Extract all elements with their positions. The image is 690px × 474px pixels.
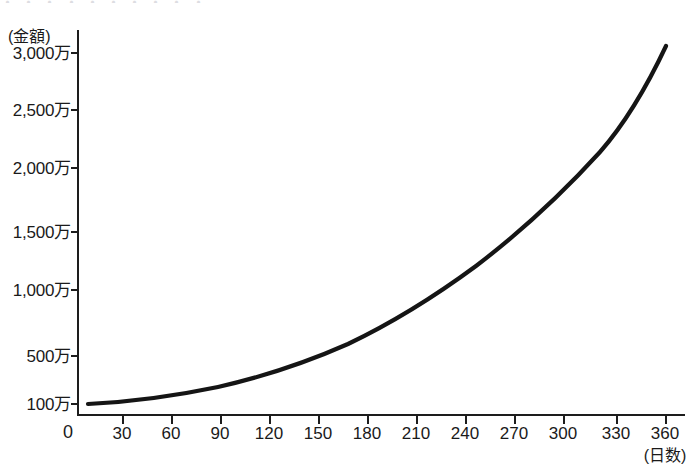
y-tick-label: 3,000万 xyxy=(1,45,71,62)
x-axis-title: (日数) xyxy=(619,448,690,464)
x-tick-360 xyxy=(665,416,667,424)
y-tick-label: 500万 xyxy=(1,348,71,365)
x-tick-240 xyxy=(465,416,467,424)
y-axis-tick-labels: 3,000万 2,500万 2,000万 1,500万 1,000万 500万 … xyxy=(0,0,71,474)
y-tick-3000man xyxy=(71,52,79,54)
x-tick-270 xyxy=(514,416,516,424)
y-tick-2000man xyxy=(71,167,79,169)
x-axis-line xyxy=(77,414,685,416)
y-tick-label: 2,500万 xyxy=(1,102,71,119)
y-tick-2500man xyxy=(71,109,79,111)
x-tick-120 xyxy=(269,416,271,424)
y-tick-1500man xyxy=(71,231,79,233)
y-tick-500man xyxy=(71,355,79,357)
x-tick-label: 300 xyxy=(533,425,593,443)
x-tick-150 xyxy=(318,416,320,424)
top-edge-text-remnant: ・ ・ ・ ・ ・ ・ ・ ・ ・ ・ xyxy=(0,0,690,3)
x-tick-label: 360 xyxy=(635,425,690,443)
y-tick-100man xyxy=(71,403,79,405)
y-tick-1000man xyxy=(71,289,79,291)
x-tick-30 xyxy=(122,416,124,424)
y-tick-label: 1,000万 xyxy=(1,282,71,299)
x-tick-label: 0 xyxy=(38,423,98,441)
y-axis-line xyxy=(77,30,79,416)
y-tick-label: 100万 xyxy=(1,396,71,413)
plot-area xyxy=(0,0,690,474)
x-tick-300 xyxy=(563,416,565,424)
x-tick-60 xyxy=(171,416,173,424)
x-tick-90 xyxy=(220,416,222,424)
chart-container: ・ ・ ・ ・ ・ ・ ・ ・ ・ ・ (金額) 3,000万 2,500万 2… xyxy=(0,0,690,474)
y-tick-label: 1,500万 xyxy=(1,224,71,241)
x-tick-210 xyxy=(416,416,418,424)
x-tick-180 xyxy=(367,416,369,424)
data-series-line-amount xyxy=(88,46,666,404)
y-tick-label: 2,000万 xyxy=(1,160,71,177)
x-tick-330 xyxy=(616,416,618,424)
